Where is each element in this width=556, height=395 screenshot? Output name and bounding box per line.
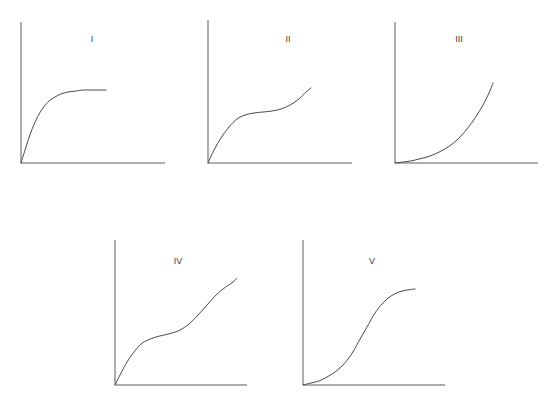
figure-background bbox=[0, 0, 556, 395]
panel-label: IV bbox=[174, 256, 183, 266]
panel-label: V bbox=[369, 256, 375, 266]
panel-label: II bbox=[285, 34, 290, 44]
five-growth-curves-figure: IIIIIIIVV bbox=[0, 0, 556, 395]
panel-label: I bbox=[91, 34, 94, 44]
panel-label: III bbox=[455, 34, 463, 44]
